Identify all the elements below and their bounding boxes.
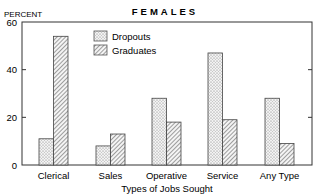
bar-graduates-any-type (280, 144, 295, 165)
bar-dropouts-clerical (39, 139, 54, 165)
bar-graduates-operative (167, 122, 182, 165)
x-axis-label: Types of Jobs Sought (121, 183, 213, 194)
y-tick-label: 60 (6, 17, 17, 28)
legend-swatch-dropouts (94, 31, 107, 41)
chart-title: FEMALES (132, 6, 198, 17)
x-tick-label: Service (207, 170, 239, 181)
y-tick-label: 40 (6, 64, 17, 75)
y-tick-label: 20 (6, 112, 17, 123)
x-tick-label: Any Type (260, 170, 299, 181)
bar-chart: PERCENT FEMALES 0204060 ClericalSalesOpe… (0, 0, 318, 196)
legend: Dropouts Graduates (94, 31, 157, 56)
bar-graduates-service (223, 120, 238, 165)
bar-dropouts-any-type (265, 98, 280, 165)
legend-swatch-graduates (94, 45, 107, 55)
legend-label-graduates: Graduates (112, 45, 157, 56)
legend-label-dropouts: Dropouts (112, 31, 151, 42)
y-tick-label: 0 (12, 160, 17, 171)
bar-graduates-clerical (54, 36, 69, 165)
x-axis-tick-labels: ClericalSalesOperativeServiceAny Type (38, 170, 300, 181)
bar-dropouts-operative (152, 98, 167, 165)
bar-graduates-sales (111, 134, 126, 165)
x-tick-label: Sales (99, 170, 123, 181)
bars (39, 36, 294, 165)
bar-dropouts-sales (96, 146, 111, 165)
bar-dropouts-service (208, 53, 223, 165)
x-tick-label: Clerical (38, 170, 70, 181)
x-tick-label: Operative (146, 170, 187, 181)
